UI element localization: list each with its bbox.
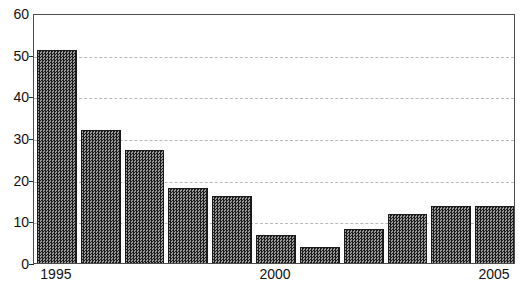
y-axis-tick-label: 30 xyxy=(1,132,29,146)
y-axis-tickmark xyxy=(29,264,34,265)
bar xyxy=(125,150,165,264)
y-axis-tick-label: 40 xyxy=(1,90,29,104)
y-axis-tick-label: 0 xyxy=(1,257,29,271)
bar xyxy=(431,206,471,264)
x-axis-tick-label: 2000 xyxy=(259,266,290,282)
bar xyxy=(168,188,208,264)
bar xyxy=(388,214,428,264)
x-axis-tick-label: 1995 xyxy=(40,266,71,282)
plot-area xyxy=(33,14,515,264)
y-axis-tick-label: 20 xyxy=(1,174,29,188)
bar xyxy=(344,229,384,264)
bar xyxy=(81,130,121,264)
x-axis-labels: 199520002005 xyxy=(33,266,515,292)
y-axis-tick-label: 60 xyxy=(1,7,29,21)
y-axis-tick-label: 10 xyxy=(1,215,29,229)
bar xyxy=(212,196,252,264)
x-axis-tick-label: 2005 xyxy=(479,266,510,282)
bar-chart: 0102030405060 199520002005 xyxy=(0,0,522,295)
bar xyxy=(475,206,515,264)
y-axis-labels: 0102030405060 xyxy=(0,0,29,295)
y-axis-tick-label: 50 xyxy=(1,49,29,63)
bar xyxy=(256,235,296,264)
bar xyxy=(300,247,340,264)
bar xyxy=(37,50,77,264)
bars-layer xyxy=(34,15,515,264)
